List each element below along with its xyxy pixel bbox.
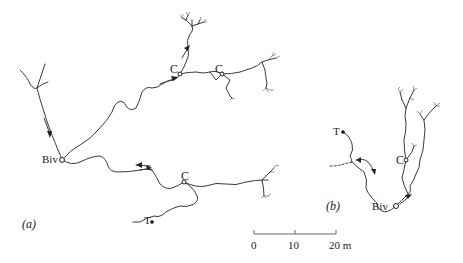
panel-b-trails — [330, 86, 440, 212]
terminus-label-b: T — [333, 126, 340, 137]
terminus-label-a: T — [144, 215, 151, 226]
bivouac-label-a: Biv — [42, 154, 58, 165]
cluster-label-a1: C — [170, 63, 178, 75]
cluster-label-b: C — [396, 154, 404, 166]
raid-trail-diagram — [0, 0, 463, 263]
cluster-label-a3: C — [181, 170, 189, 182]
panel-b-label: (b) — [326, 200, 340, 212]
bivouac-label-b: Biv — [372, 201, 388, 212]
panel-a-label: (a) — [22, 218, 36, 230]
scale-tick-20: 20 m — [329, 240, 351, 251]
scale-tick-0: 0 — [251, 240, 257, 251]
scale-tick-10: 10 — [288, 240, 299, 251]
scale-bar — [254, 230, 336, 234]
panel-a-trails — [20, 12, 280, 224]
cluster-label-a2: C — [215, 63, 223, 75]
